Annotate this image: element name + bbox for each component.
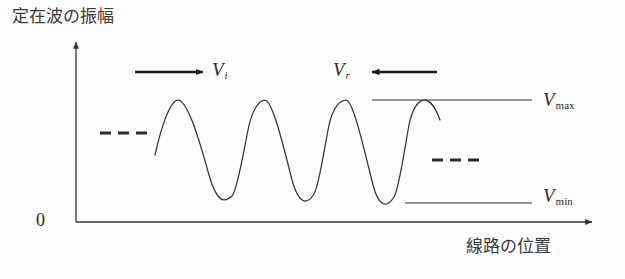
reflected-wave-subscript: r: [346, 69, 350, 81]
vmin-symbol: V: [543, 185, 555, 206]
reflected-wave-label: Vr: [333, 60, 349, 79]
y-axis-label: 定在波の振幅: [12, 8, 114, 25]
vmin-subscript: min: [556, 195, 573, 207]
standing-wave-figure: 定在波の振幅 線路の位置 0 Vi Vr Vmax Vmin: [0, 0, 625, 279]
incident-wave-subscript: i: [225, 69, 228, 81]
incident-wave-symbol: V: [212, 59, 224, 80]
vmax-symbol: V: [543, 89, 555, 110]
vmin-label: Vmin: [543, 186, 572, 205]
vmax-subscript: max: [556, 99, 575, 111]
reflected-wave-symbol: V: [333, 59, 345, 80]
origin-label: 0: [36, 211, 45, 229]
x-axis-label: 線路の位置: [466, 238, 551, 255]
standing-wave-curve: [155, 100, 440, 204]
vmax-label: Vmax: [543, 90, 574, 109]
incident-wave-label: Vi: [212, 60, 227, 79]
